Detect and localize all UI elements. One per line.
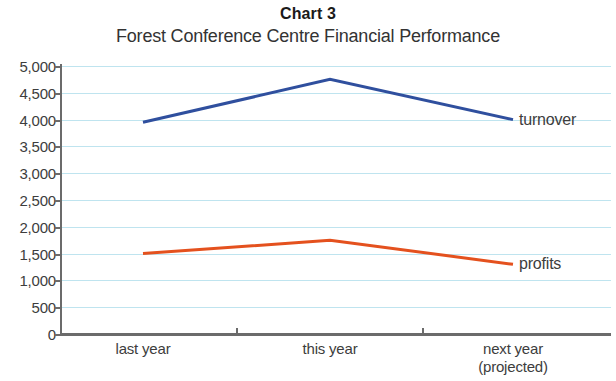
series-label-profits: profits	[519, 256, 561, 272]
series-line-turnover	[143, 79, 513, 122]
series-line-profits	[143, 240, 513, 264]
series-label-turnover: turnover	[519, 112, 576, 128]
series-lines	[0, 0, 616, 381]
chart-container: Chart 3 Forest Conference Centre Financi…	[0, 0, 616, 381]
